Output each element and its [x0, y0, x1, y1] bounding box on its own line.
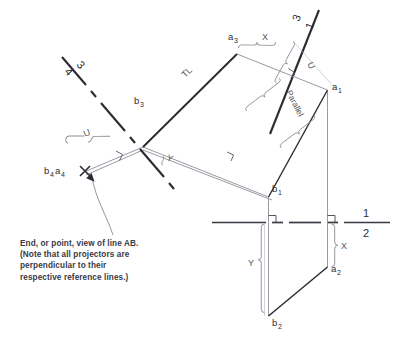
dim-u-top-label: U — [305, 60, 317, 70]
caption-leader-line — [86, 172, 113, 235]
point-label-b2: b 2 — [272, 317, 282, 330]
dim-x-bottom-label: X — [341, 241, 347, 251]
dim-y-bottom-label: Y — [248, 258, 254, 268]
view-2-geometry — [269, 90, 336, 316]
svg-text:3: 3 — [234, 37, 238, 44]
point-label-a3: a 3 — [228, 31, 238, 44]
svg-text:4: 4 — [61, 171, 65, 178]
parallel-label: Parallel — [284, 88, 306, 118]
dim-x-top-label: X — [262, 32, 268, 42]
point-label-b1: b 1 — [272, 183, 282, 196]
svg-text:3: 3 — [140, 101, 144, 108]
svg-text:2: 2 — [278, 323, 282, 330]
caption-line-3: perpendicular to their — [20, 260, 200, 271]
svg-text:1: 1 — [278, 189, 282, 196]
descriptive-geometry-drawing: 1 2 X Y a 2 b 2 b 1 3 1 — [0, 0, 400, 340]
svg-text:b: b — [44, 165, 49, 176]
point-label-b3: b 3 — [134, 95, 144, 108]
dim-x-bottom-brace — [332, 224, 338, 267]
dim-x-top-brace — [238, 30, 276, 60]
fold-label-1: 1 — [363, 207, 369, 219]
true-length-label: TL — [179, 65, 194, 79]
svg-text:2: 2 — [337, 269, 341, 276]
dim-y-middle-label: Y — [165, 153, 174, 164]
point-label-a2: a 2 — [331, 263, 341, 276]
caption-line-2: (Note that all projectors are — [20, 249, 200, 260]
view-1-geometry — [143, 54, 328, 197]
fold-line-4-3 — [62, 57, 174, 189]
svg-text:4: 4 — [50, 171, 54, 178]
point-view-marker — [80, 166, 90, 176]
view-3-geometry — [84, 54, 272, 200]
fold-label-4: 4 — [62, 65, 75, 77]
caption-line-4: respective reference lines.) — [20, 272, 200, 283]
svg-text:b: b — [272, 317, 277, 328]
svg-text:1: 1 — [338, 87, 342, 94]
svg-text:b: b — [134, 95, 139, 106]
dim-u-left-label: U — [82, 127, 92, 139]
figure-caption: End, or point, view of line AB. (Note th… — [20, 238, 200, 283]
fold-label-3: 3 — [74, 58, 87, 70]
point-label-a1: a 1 — [332, 81, 342, 94]
fold-label-2: 2 — [363, 227, 369, 239]
fold-label-3-upper: 3 — [290, 13, 303, 23]
dim-y-bottom-brace — [258, 224, 264, 316]
caption-line-1: End, or point, view of line AB. — [20, 238, 200, 249]
point-label-b4a4: b 4 a 4 — [44, 165, 65, 178]
